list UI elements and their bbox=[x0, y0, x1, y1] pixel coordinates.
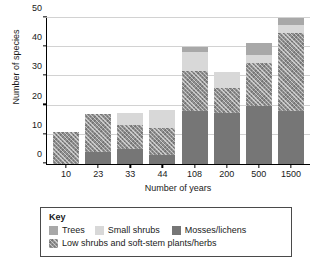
bar-column[interactable]: 500 bbox=[246, 18, 272, 164]
bar-column[interactable]: 33 bbox=[117, 18, 143, 164]
bar-segment bbox=[117, 125, 143, 150]
y-tick-label: 0 bbox=[37, 149, 42, 159]
legend-label-trees: Trees bbox=[62, 224, 85, 236]
bar-segment bbox=[182, 111, 208, 164]
bar-segment bbox=[149, 155, 175, 164]
bar-segment bbox=[214, 88, 240, 113]
bar-column[interactable]: 108 bbox=[182, 18, 208, 164]
bar-segment bbox=[117, 149, 143, 164]
legend-label-low-shrubs: Low shrubs and soft-stem plants/herbs bbox=[62, 237, 217, 249]
bar-segment bbox=[149, 128, 175, 156]
legend-row-top: Trees Small shrubs Mosses/lichens bbox=[49, 224, 284, 236]
x-tick-mark bbox=[258, 164, 259, 168]
bar-column[interactable]: 1500 bbox=[278, 18, 304, 164]
y-axis-label: Number of species bbox=[11, 7, 21, 127]
bar-column[interactable]: 23 bbox=[85, 18, 111, 164]
bar-segment bbox=[278, 33, 304, 112]
bar-segment bbox=[246, 106, 272, 164]
bar-segment bbox=[246, 63, 272, 105]
trees-swatch bbox=[49, 226, 58, 235]
y-tick-label: 10 bbox=[32, 120, 42, 130]
bar-segment bbox=[182, 52, 208, 71]
x-axis-label: Number of years bbox=[46, 183, 310, 193]
x-tick-mark bbox=[65, 164, 66, 168]
bar-segment bbox=[246, 43, 272, 55]
low-shrubs-swatch bbox=[49, 239, 58, 248]
legend-row-bottom: Low shrubs and soft-stem plants/herbs bbox=[49, 237, 284, 249]
bar-column[interactable]: 200 bbox=[214, 18, 240, 164]
x-tick-label: 1500 bbox=[281, 169, 301, 179]
bar-segment bbox=[278, 18, 304, 25]
bar-segment bbox=[278, 25, 304, 32]
x-tick-label: 108 bbox=[187, 169, 202, 179]
x-tick-label: 33 bbox=[125, 169, 135, 179]
x-tick-mark bbox=[194, 164, 195, 168]
legend-entry-small-shrubs: Small shrubs bbox=[95, 224, 160, 236]
x-tick-label: 23 bbox=[93, 169, 103, 179]
bar-segment bbox=[182, 71, 208, 112]
y-tick-label: 50 bbox=[32, 3, 42, 13]
stacked-bar-chart-figure: Number of species 01020304050 1023334410… bbox=[0, 0, 328, 266]
x-tick-mark bbox=[130, 164, 131, 168]
bar-segment bbox=[149, 110, 175, 128]
x-tick-label: 500 bbox=[251, 169, 266, 179]
plot-area: 01020304050 102333441082005001500 bbox=[46, 18, 310, 165]
bar-segment bbox=[117, 113, 143, 125]
bar-column[interactable]: 10 bbox=[53, 18, 79, 164]
y-tick-label: 30 bbox=[32, 61, 42, 71]
bar-segment bbox=[246, 55, 272, 64]
y-tick-label: 40 bbox=[32, 32, 42, 42]
bar-segment bbox=[85, 152, 111, 164]
legend-entry-trees: Trees bbox=[49, 224, 85, 236]
legend-entry-low-shrubs: Low shrubs and soft-stem plants/herbs bbox=[49, 237, 217, 249]
x-tick-mark bbox=[226, 164, 227, 168]
bar-group: 102333441082005001500 bbox=[47, 18, 310, 164]
x-tick-mark bbox=[98, 164, 99, 168]
bar-segment bbox=[214, 72, 240, 88]
bar-segment bbox=[85, 114, 111, 152]
bar-segment bbox=[278, 111, 304, 164]
mosses-lichens-swatch bbox=[172, 226, 181, 235]
legend-title: Key bbox=[49, 212, 284, 223]
legend-key-box: Key Trees Small shrubs Mosses/lichens Lo… bbox=[40, 207, 292, 257]
legend-label-mosses-lichens: Mosses/lichens bbox=[185, 224, 247, 236]
small-shrubs-swatch bbox=[95, 226, 104, 235]
legend-entry-mosses-lichens: Mosses/lichens bbox=[172, 224, 247, 236]
x-tick-label: 10 bbox=[61, 169, 71, 179]
x-tick-mark bbox=[290, 164, 291, 168]
bar-segment bbox=[53, 132, 79, 164]
chart-area: Number of species 01020304050 1023334410… bbox=[0, 0, 328, 198]
y-tick-label: 20 bbox=[32, 91, 42, 101]
bar-segment bbox=[214, 113, 240, 164]
x-tick-label: 200 bbox=[219, 169, 234, 179]
x-tick-label: 44 bbox=[157, 169, 167, 179]
legend-label-small-shrubs: Small shrubs bbox=[108, 224, 160, 236]
x-tick-mark bbox=[162, 164, 163, 168]
bar-column[interactable]: 44 bbox=[149, 18, 175, 164]
